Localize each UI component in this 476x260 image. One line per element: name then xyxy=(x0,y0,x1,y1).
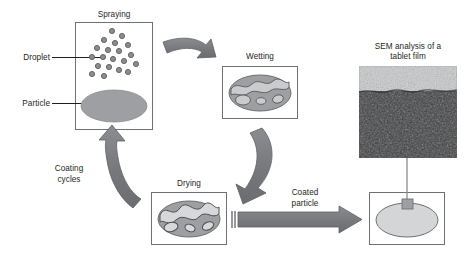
droplet xyxy=(94,45,99,50)
arrow-spraying-to-wetting xyxy=(163,38,216,58)
droplet xyxy=(125,42,130,47)
droplet-group xyxy=(89,28,138,78)
coating-process-diagram: Spraying Wetting Drying xyxy=(0,0,476,260)
droplet xyxy=(116,48,121,53)
wetting-particle xyxy=(229,75,291,111)
droplet xyxy=(106,64,111,69)
spraying-particle xyxy=(81,90,147,122)
sem-connector xyxy=(402,158,413,209)
droplet xyxy=(89,54,94,59)
droplet xyxy=(128,52,133,57)
droplet xyxy=(89,71,94,76)
droplet xyxy=(116,67,121,72)
droplet xyxy=(101,73,106,78)
droplet xyxy=(95,63,100,68)
droplet xyxy=(133,61,138,66)
arrow-coated-particle xyxy=(232,206,362,233)
arrow-coating-cycles xyxy=(99,125,141,208)
droplet xyxy=(110,56,115,61)
droplet xyxy=(112,40,117,45)
droplet xyxy=(125,69,130,74)
drying-particle xyxy=(158,201,220,237)
droplet xyxy=(100,54,105,59)
droplet xyxy=(105,47,110,52)
droplet xyxy=(101,37,106,42)
arrow-wetting-to-drying xyxy=(236,128,272,204)
droplet xyxy=(109,28,114,33)
droplet xyxy=(119,33,124,38)
droplet xyxy=(121,58,126,63)
diagram-vector-layer xyxy=(0,0,476,260)
